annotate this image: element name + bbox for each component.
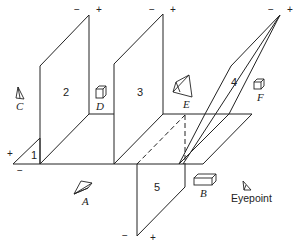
object-d-label: D bbox=[96, 101, 104, 112]
object-f-label: F bbox=[257, 92, 264, 103]
eyepoint-label: Eyepoint bbox=[231, 193, 272, 204]
panel-4-label: 4 bbox=[231, 77, 237, 88]
panel-2-label: 2 bbox=[63, 87, 69, 98]
panel-5-label: 5 bbox=[154, 182, 160, 193]
object-e-label: E bbox=[183, 99, 190, 110]
panel-3-minus-sign: − bbox=[149, 5, 155, 15]
diagram-lines bbox=[0, 0, 297, 246]
floor-right bbox=[137, 114, 252, 164]
panel-3-plus-sign: + bbox=[170, 5, 176, 15]
panel-4-plus-sign: + bbox=[287, 5, 293, 15]
object-b-box-icon bbox=[194, 174, 216, 185]
hidden-edges bbox=[137, 115, 185, 164]
object-d-cube-icon bbox=[96, 86, 106, 98]
panel-4-minus-sign: − bbox=[268, 5, 274, 15]
object-b-label: B bbox=[200, 188, 207, 199]
panel-3-label: 3 bbox=[137, 87, 143, 98]
bsp-partition-diagram: 1 2 3 4 5 + − − + − + − + − + C D E F A … bbox=[0, 0, 297, 246]
eyepoint-icon bbox=[243, 181, 251, 190]
object-e-pyramid-icon bbox=[173, 75, 192, 97]
panel-5-plus-sign: + bbox=[150, 233, 156, 243]
panel-5-shape bbox=[137, 164, 185, 236]
object-a-pyramid-icon bbox=[74, 181, 92, 194]
panel-1-plus-sign: + bbox=[7, 149, 13, 159]
panel-4-shape bbox=[179, 15, 280, 164]
object-a-label: A bbox=[82, 196, 89, 207]
panel-1-minus-sign: − bbox=[17, 166, 23, 176]
object-c-pyramid-icon bbox=[16, 87, 24, 99]
panel-1-label: 1 bbox=[31, 150, 37, 161]
panel-3-shape bbox=[114, 14, 230, 164]
panel-2-plus-sign: + bbox=[96, 5, 102, 15]
panel-5-minus-sign: − bbox=[122, 231, 128, 241]
object-c-label: C bbox=[16, 101, 23, 112]
panel-2-minus-sign: − bbox=[74, 5, 80, 15]
object-f-cube-icon bbox=[254, 79, 264, 89]
